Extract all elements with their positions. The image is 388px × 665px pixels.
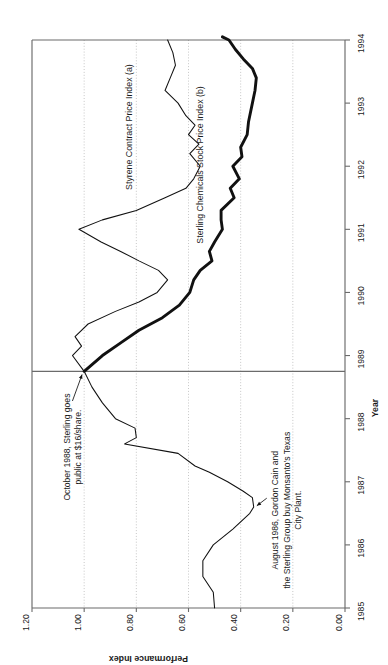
annotation-arrowhead — [79, 374, 83, 379]
year-tick-label: 1986 — [356, 539, 366, 558]
gridlines — [84, 40, 293, 608]
year-tick-label: 1993 — [356, 97, 366, 116]
value-tick-label: 0.20 — [281, 614, 291, 631]
year-tick-label: 1990 — [356, 286, 366, 305]
y-axis-title: Performance Index — [109, 654, 188, 664]
year-ticks: 1985198619871988198919901991199219931994 — [345, 34, 366, 621]
year-tick-label: 1991 — [356, 223, 366, 242]
value-tick-label: 0.00 — [334, 614, 344, 631]
series-line-2 — [84, 37, 256, 371]
year-tick-label: 1989 — [356, 349, 366, 368]
annotation-line: October 1988, Sterling goes — [62, 394, 72, 501]
annotation-ipo: October 1988, Sterling goespublic at $16… — [62, 374, 84, 500]
value-tick-label: 0.80 — [125, 614, 135, 631]
value-ticks: 0.000.200.400.600.801.001.20 — [21, 608, 345, 631]
annotation-acquisition: August 1986, Gordon Cain andthe Sterling… — [257, 432, 304, 589]
series-label-2: Sterling Chemicals Stock Price Index (b) — [195, 86, 205, 243]
year-tick-label: 1992 — [356, 160, 366, 179]
annotation-leader — [72, 374, 82, 401]
annotation-line: August 1986, Gordon Cain and — [270, 451, 280, 570]
series-group — [72, 37, 256, 608]
year-tick-label: 1994 — [356, 34, 366, 53]
annotation-line: City Plant. — [293, 491, 303, 530]
value-tick-label: 1.00 — [73, 614, 83, 631]
rotated-line-chart: 0.000.200.400.600.801.001.20198519861987… — [0, 0, 388, 665]
x-axis-title: Year — [370, 398, 380, 417]
year-tick-label: 1985 — [356, 602, 366, 621]
value-tick-label: 0.40 — [229, 614, 239, 631]
year-tick-label: 1988 — [356, 412, 366, 431]
value-tick-label: 1.20 — [21, 614, 31, 631]
annotation-line: the Sterling Group buy Monsanto's Texas — [282, 432, 292, 589]
chart-container: 0.000.200.400.600.801.001.20198519861987… — [0, 0, 388, 665]
annotation-line: public at $16/share. — [73, 410, 83, 485]
series-line-1 — [72, 40, 253, 608]
year-tick-label: 1987 — [356, 475, 366, 494]
value-tick-label: 0.60 — [177, 614, 187, 631]
series-label-1: Styrene Contract Price Index (a) — [124, 64, 134, 190]
